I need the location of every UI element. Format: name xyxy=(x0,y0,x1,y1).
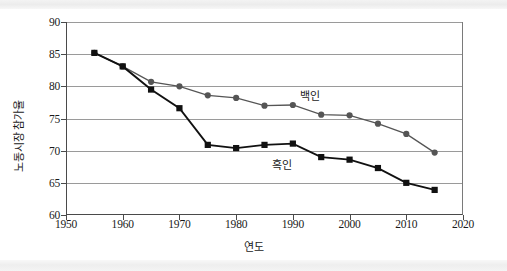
y-tick-label: 70 xyxy=(49,145,60,157)
x-axis-title: 연도 xyxy=(0,238,507,254)
chart-page: 노동시장 참가율 연도 60657075808590 1950196019701… xyxy=(0,0,507,271)
series-흑인 xyxy=(91,50,437,193)
x-tick-mark xyxy=(66,215,67,220)
x-tick-mark xyxy=(350,215,351,220)
chart-plot-area: 백인흑인 xyxy=(66,22,463,215)
data-point-marker xyxy=(233,145,239,151)
data-point-marker xyxy=(375,165,381,171)
x-tick-label-group: 19501960197019801990200020102020 xyxy=(66,218,463,234)
data-point-marker xyxy=(233,95,239,101)
data-point-marker xyxy=(91,50,97,56)
data-point-marker xyxy=(346,112,352,118)
data-point-marker xyxy=(432,150,438,156)
x-tick-mark xyxy=(293,215,294,220)
data-point-marker xyxy=(403,131,409,137)
series-layer xyxy=(66,22,463,215)
series-line xyxy=(94,53,434,190)
bottom-edge-band xyxy=(0,260,507,271)
data-point-marker xyxy=(176,105,182,111)
x-tick-mark xyxy=(236,215,237,220)
data-point-marker xyxy=(346,157,352,163)
data-point-marker xyxy=(120,63,126,69)
data-point-marker xyxy=(290,140,296,146)
data-point-marker xyxy=(205,92,211,98)
x-tick-mark xyxy=(179,215,180,220)
x-tick-mark xyxy=(123,215,124,220)
x-tick-mark xyxy=(406,215,407,220)
y-axis-title: 노동시장 참가율 xyxy=(10,99,26,172)
y-tick-label: 65 xyxy=(49,177,60,189)
data-point-marker xyxy=(261,142,267,148)
y-tick-label: 75 xyxy=(49,113,60,125)
y-tick-label: 80 xyxy=(49,80,60,92)
data-point-marker xyxy=(375,121,381,127)
y-tick-label: 85 xyxy=(49,48,60,60)
data-point-marker xyxy=(148,79,154,85)
x-tick-mark xyxy=(463,215,464,220)
data-point-marker xyxy=(432,187,438,193)
series-백인 xyxy=(91,50,437,156)
data-point-marker xyxy=(290,102,296,108)
data-point-marker xyxy=(403,180,409,186)
y-tick-label: 90 xyxy=(49,16,60,28)
data-point-marker xyxy=(148,86,154,92)
data-point-marker xyxy=(176,83,182,89)
data-point-marker xyxy=(261,103,267,109)
top-edge-band xyxy=(0,0,507,9)
y-tick-label-group: 60657075808590 xyxy=(30,22,60,215)
series-label-백인: 백인 xyxy=(300,87,320,103)
data-point-marker xyxy=(318,154,324,160)
data-point-marker xyxy=(318,112,324,118)
data-point-marker xyxy=(205,142,211,148)
series-label-흑인: 흑인 xyxy=(272,156,292,172)
